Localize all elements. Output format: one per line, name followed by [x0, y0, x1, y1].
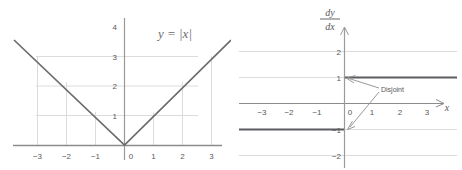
- abs-value-chart: 1 2 3 4 −3 −2 −1 0 1 2 3 y = |x|: [0, 0, 231, 170]
- x-tick-3: 3: [209, 152, 214, 161]
- x-tick-labels: −3 −2 −1 0 1 2 3: [257, 108, 429, 117]
- horizontal-gridlines: [36, 57, 198, 116]
- x-tick-neg2: −2: [284, 108, 294, 117]
- x-tick-2: 2: [398, 108, 403, 117]
- y-tick-3: 3: [113, 53, 118, 62]
- x-tick-neg2: −2: [62, 152, 72, 161]
- y-axis-label-fraction: dy dx: [320, 7, 340, 32]
- x-tick-1: 1: [370, 108, 375, 117]
- x-axis-label: x: [444, 102, 450, 113]
- derivative-chart: x dy dx Disjoint: [231, 0, 462, 170]
- fraction-denominator: dx: [325, 21, 335, 32]
- abs-value-svg: 1 2 3 4 −3 −2 −1 0 1 2 3 y = |x|: [0, 0, 231, 170]
- x-tick-3: 3: [425, 108, 430, 117]
- x-tick-neg1: −1: [91, 152, 101, 161]
- y-tick-neg2: −2: [332, 152, 342, 161]
- x-tick-neg1: −1: [312, 108, 322, 117]
- y-tick-4: 4: [113, 23, 118, 32]
- disjoint-label: Disjoint: [381, 86, 404, 94]
- x-tick-0: 0: [129, 152, 134, 161]
- y-tick-1: 1: [337, 74, 342, 83]
- equation-label: y = |x|: [156, 26, 192, 41]
- y-tick-2: 2: [113, 82, 118, 91]
- y-tick-labels: 1 2 3 4: [113, 23, 118, 121]
- y-tick-1: 1: [113, 112, 118, 121]
- y-tick-neg1: −1: [332, 126, 342, 135]
- disjoint-arrows: [347, 76, 380, 130]
- x-tick-2: 2: [180, 152, 185, 161]
- figure-container: 1 2 3 4 −3 −2 −1 0 1 2 3 y = |x|: [0, 0, 462, 170]
- x-tick-labels: −3 −2 −1 0 1 2 3: [33, 152, 214, 161]
- x-tick-neg3: −3: [33, 152, 43, 161]
- abs-value-curve-path: [14, 40, 231, 145]
- fraction-numerator: dy: [325, 7, 335, 18]
- x-tick-1: 1: [151, 152, 156, 161]
- derivative-svg: x dy dx Disjoint: [231, 0, 462, 170]
- y-tick-2: 2: [337, 48, 342, 57]
- x-tick-0: 0: [348, 108, 353, 117]
- x-tick-neg3: −3: [257, 108, 267, 117]
